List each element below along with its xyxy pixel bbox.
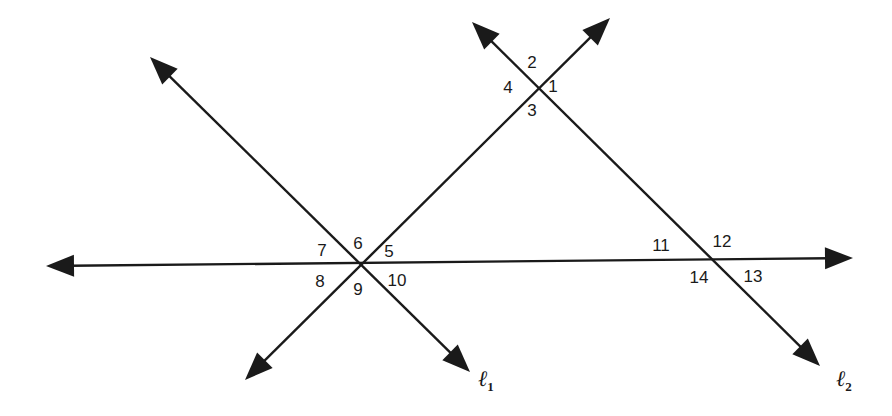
angle-label-1: 1 (548, 78, 557, 95)
angle-label-9: 9 (353, 281, 362, 298)
angle-label-13: 13 (744, 268, 763, 285)
angle-label-4: 4 (503, 79, 512, 96)
line-l1 (167, 74, 453, 355)
arrowhead-icon (46, 255, 74, 277)
lines-group (46, 18, 853, 380)
angle-label-5: 5 (384, 243, 393, 260)
angle-label-3: 3 (527, 102, 536, 119)
angle-label-2: 2 (527, 54, 536, 71)
angle-label-8: 8 (315, 273, 324, 290)
arrowhead-icon (825, 247, 853, 269)
angle-label-11: 11 (652, 237, 670, 254)
angle-label-7: 7 (317, 242, 326, 259)
angle-label-10: 10 (388, 272, 407, 289)
angle-label-14: 14 (690, 269, 709, 286)
angle-label-12: 12 (713, 233, 732, 250)
line-label-l2: ℓ2 (836, 368, 852, 393)
geometry-diagram (0, 0, 892, 416)
transversal (262, 35, 593, 363)
angle-label-6: 6 (353, 235, 362, 252)
line-label-l1: ℓ1 (478, 368, 494, 393)
line-l2 (489, 39, 803, 349)
